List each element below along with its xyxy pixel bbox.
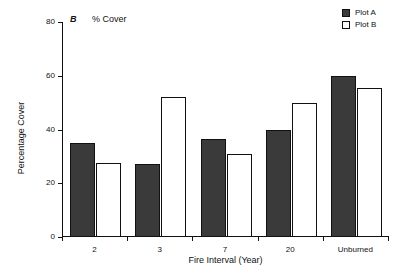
bar-plot-a-2 xyxy=(70,143,95,237)
x-axis-title: Fire Interval (Year) xyxy=(62,255,389,265)
x-tick-0 xyxy=(62,237,63,241)
y-axis-title: Percentage Cover xyxy=(16,68,26,208)
x-tick-4 xyxy=(323,237,324,241)
y-tick-20: 20 xyxy=(58,183,62,184)
bar-plot-b-3 xyxy=(161,97,186,237)
x-tick-label-0: 2 xyxy=(92,245,96,254)
y-tick-label-80: 80 xyxy=(35,17,55,26)
y-tick-label-0: 0 xyxy=(35,232,55,241)
x-tick-2 xyxy=(192,237,193,241)
y-axis-title-holder: Percentage Cover xyxy=(22,20,36,236)
y-tick-label-40: 40 xyxy=(35,125,55,134)
bar-plot-b-7 xyxy=(227,154,252,237)
bar-group-container xyxy=(63,22,389,237)
x-tick-label-3: 20 xyxy=(286,245,295,254)
bar-plot-a-20 xyxy=(266,130,291,238)
plot-area: 020406080 23720Unburned xyxy=(62,22,389,236)
x-tick-end xyxy=(388,237,389,241)
x-tick-3 xyxy=(258,237,259,241)
chart-figure: Plot A Plot B B % Cover Percentage Cover… xyxy=(0,0,412,280)
legend-item-plot-a: Plot A xyxy=(342,8,376,17)
x-tick-label-4: Unburned xyxy=(338,245,373,254)
legend-label-plot-a: Plot A xyxy=(355,8,376,17)
legend-swatch-filled-icon xyxy=(342,9,350,17)
y-tick-label-60: 60 xyxy=(35,71,55,80)
bar-plot-b-2 xyxy=(96,163,121,237)
bar-plot-a-unburned xyxy=(331,76,356,237)
x-tick-1 xyxy=(127,237,128,241)
y-tick-80: 80 xyxy=(58,22,62,23)
x-tick-label-1: 3 xyxy=(158,245,162,254)
y-tick-label-20: 20 xyxy=(35,178,55,187)
bar-plot-a-3 xyxy=(135,164,160,237)
bar-plot-b-unburned xyxy=(357,88,382,237)
y-tick-60: 60 xyxy=(58,76,62,77)
bar-plot-a-7 xyxy=(201,139,226,237)
y-tick-40: 40 xyxy=(58,130,62,131)
x-tick-label-2: 7 xyxy=(223,245,227,254)
bar-plot-b-20 xyxy=(292,103,317,237)
